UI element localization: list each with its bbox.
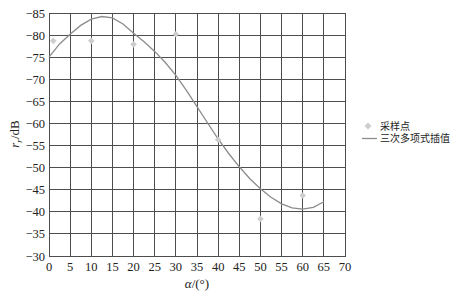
y-tick-label: −40 [25,205,45,219]
x-tick-label: 10 [85,260,98,274]
y-tick-label: −85 [25,7,45,21]
x-tick-label: 0 [46,260,52,274]
x-tick-label: 30 [170,260,183,274]
legend-item-samples: 采样点 [365,120,411,132]
y-tick-label: −75 [25,51,45,65]
y-axis-label-unit: /dB [7,120,22,139]
cubic-interpolation-curve [49,17,324,210]
sample-point-marker [88,38,95,45]
x-tick-label: 15 [106,260,119,274]
y-tick-label: −30 [25,250,45,264]
y-tick-label: −35 [25,227,45,241]
legend-item-curve: 三次多项式插值 [362,132,450,144]
x-tick-label: 25 [148,260,161,274]
x-tick-label: 5 [67,260,73,274]
y-axis-label: rr/dB [7,120,24,148]
x-tick-label: 55 [275,260,288,274]
x-tick-label: 50 [254,260,267,274]
sample-point-marker [257,216,264,223]
sample-point-marker [50,38,57,45]
legend-label-curve: 三次多项式插值 [380,132,450,144]
sample-points [50,31,306,222]
y-tick-label: −70 [25,73,45,87]
grid [49,13,345,256]
x-tick-label: 20 [127,260,140,274]
x-tick-label: 40 [212,260,225,274]
legend: 采样点 三次多项式插值 [362,120,450,144]
x-tick-label: 45 [233,260,246,274]
x-tick-label: 35 [191,260,204,274]
x-axis-label: α/(°) [185,276,209,291]
x-axis-ticks: 0510152025303540455055606570 [46,260,351,274]
y-tick-label: −55 [25,139,45,153]
y-tick-label: −45 [25,183,45,197]
y-tick-label: −65 [25,95,45,109]
diamond-marker-icon [365,123,372,130]
x-tick-label: 60 [296,260,309,274]
y-axis-ticks: −85−80−75−70−65−60−55−50−45−40−35−30 [25,7,45,264]
y-tick-label: −50 [25,161,45,175]
sample-point-marker [299,192,306,199]
legend-label-samples: 采样点 [380,120,410,132]
x-tick-label: 65 [318,260,331,274]
y-tick-label: −60 [25,117,45,131]
x-tick-label: 70 [339,260,352,274]
y-tick-label: −80 [25,29,45,43]
chart: −85−80−75−70−65−60−55−50−45−40−35−30 051… [0,0,463,299]
x-axis-label-unit: /(°) [192,276,209,291]
sample-point-marker [173,31,180,38]
sample-point-marker [130,41,137,48]
